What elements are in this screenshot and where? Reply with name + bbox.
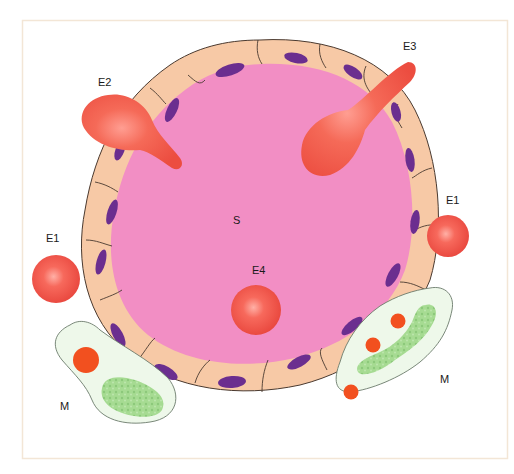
diagram-canvas: E2 E3 E1 E1 S E4 M M (0, 0, 514, 474)
erythrocyte-e1-left (32, 255, 80, 303)
label-e2: E2 (98, 77, 111, 88)
erythrocyte-e4 (231, 285, 281, 335)
label-m-left: M (60, 401, 69, 412)
ingested-cell (73, 347, 99, 373)
label-m-right: M (440, 374, 449, 385)
label-e3: E3 (403, 41, 416, 52)
label-e4: E4 (252, 265, 265, 276)
label-e1-left: E1 (46, 233, 59, 244)
label-e1-right: E1 (446, 195, 459, 206)
ingested-cell (366, 338, 381, 353)
ingested-cell (391, 314, 406, 329)
label-lumen: S (233, 215, 240, 226)
ingested-cell (344, 385, 359, 400)
erythrocyte-e1-right (427, 215, 469, 257)
sinusoid-diagram (0, 0, 514, 474)
